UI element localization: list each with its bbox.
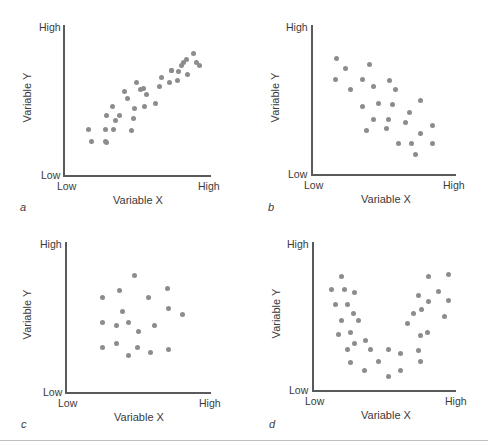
plot-area — [313, 242, 456, 391]
data-point — [418, 359, 423, 364]
data-point — [386, 347, 391, 352]
data-point — [446, 298, 451, 303]
data-point — [368, 347, 373, 352]
data-point — [398, 368, 403, 373]
data-point — [352, 290, 357, 295]
x-high-label: High — [445, 396, 467, 407]
data-point — [351, 311, 356, 316]
data-point — [416, 293, 421, 298]
y-high-label: High — [287, 239, 309, 250]
data-point — [336, 332, 341, 337]
data-point — [416, 348, 421, 353]
data-point — [348, 330, 353, 335]
data-point — [436, 289, 441, 294]
data-point — [376, 359, 381, 364]
x-low-label: Low — [305, 396, 324, 407]
data-point — [348, 360, 353, 365]
data-point — [362, 368, 367, 373]
data-point — [386, 374, 391, 379]
y-low-label: Low — [289, 385, 308, 396]
data-point — [419, 307, 424, 312]
data-point — [345, 347, 350, 352]
y-axis-title: Variable Y — [271, 289, 282, 339]
x-axis-title: Variable X — [361, 410, 411, 421]
data-point — [342, 287, 347, 292]
data-point — [339, 274, 344, 279]
panel-d: High Low Low High Variable X Variable Y … — [0, 0, 488, 445]
data-point — [345, 302, 350, 307]
panel-letter: d — [269, 419, 275, 430]
data-point — [425, 330, 430, 335]
scatter-figure: High Low Low High Variable X Variable Y … — [0, 0, 488, 445]
data-point — [398, 351, 403, 356]
data-point — [446, 272, 451, 277]
data-point — [333, 302, 338, 307]
data-point — [352, 341, 357, 346]
data-point — [418, 333, 423, 338]
data-point — [405, 321, 410, 326]
data-point — [426, 274, 431, 279]
data-point — [426, 299, 431, 304]
data-point — [442, 314, 447, 319]
bottom-separator — [0, 440, 488, 441]
data-point — [411, 311, 416, 316]
data-point — [356, 318, 361, 323]
data-point — [339, 318, 344, 323]
data-point — [329, 287, 334, 292]
data-point — [363, 338, 368, 343]
